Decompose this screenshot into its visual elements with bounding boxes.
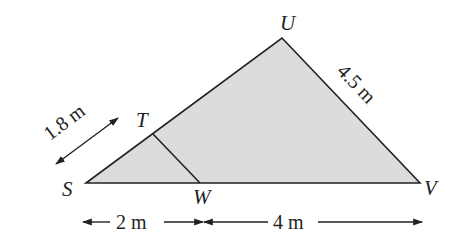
vertex-label-t: T	[136, 108, 149, 132]
vertex-label-s: S	[62, 177, 73, 201]
measurement-sw: 2 m	[116, 211, 147, 233]
triangle-diagram: S U V T W 1.8 m 4.5 m 2 m 4 m	[0, 0, 458, 248]
vertex-label-w: W	[193, 185, 213, 209]
vertex-label-u: U	[280, 11, 297, 35]
vertex-label-v: V	[424, 176, 439, 200]
measurement-st: 1.8 m	[39, 99, 89, 144]
measurement-wv: 4 m	[273, 211, 304, 233]
